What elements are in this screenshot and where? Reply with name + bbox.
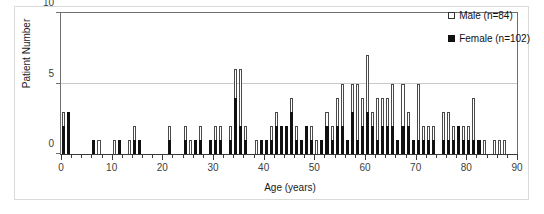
bar-segment-female [290, 112, 293, 154]
bar-stack [255, 140, 258, 154]
bar-segment-female [239, 126, 242, 154]
bar-stack [184, 126, 187, 154]
x-axis-tick-minor [71, 154, 72, 158]
bar-segment-male [467, 126, 470, 140]
x-axis-tick-minor [436, 154, 437, 158]
bar-segment-male [401, 84, 404, 126]
x-axis-tick-major [314, 154, 315, 160]
x-axis-tick-minor [385, 154, 386, 158]
bar-segment-female [457, 126, 460, 154]
bar-segment-male [361, 98, 364, 126]
x-axis-tick-minor [476, 154, 477, 158]
y-axis-tick [56, 83, 61, 84]
bar-stack [336, 98, 339, 154]
bar-stack [331, 126, 334, 154]
x-axis-tick-minor [375, 154, 376, 158]
x-axis-tick-minor [243, 154, 244, 158]
bar-stack [300, 140, 303, 154]
bar-segment-female [67, 112, 70, 154]
x-axis-tick-major [264, 154, 265, 160]
x-axis-tick-minor [81, 154, 82, 158]
bar-segment-male [214, 126, 217, 140]
bar-stack [407, 112, 410, 154]
bar-stack [341, 84, 344, 155]
bar-segment-male [244, 126, 247, 140]
bar-segment-male [427, 126, 430, 140]
bar-stack [351, 84, 354, 155]
x-axis-tick-minor [254, 154, 255, 158]
x-axis-title: Age (years) [60, 182, 520, 193]
bar-segment-male [493, 140, 496, 154]
bar-segment-female [168, 140, 171, 154]
bar-stack [503, 140, 506, 154]
bar-segment-female [447, 140, 450, 154]
y-axis-tick-label: 5 [48, 67, 54, 78]
bar-segment-female [331, 140, 334, 154]
bar-segment-female [341, 126, 344, 154]
x-axis-tick-label: 90 [511, 162, 522, 173]
bar-segment-male [219, 126, 222, 140]
x-axis-tick-minor [294, 154, 295, 158]
bar-stack [483, 140, 486, 154]
bar-stack [290, 98, 293, 154]
bar-segment-female [138, 140, 141, 154]
bar-segment-male [255, 140, 258, 154]
bar-segment-female [325, 126, 328, 154]
bar-segment-male [239, 69, 242, 125]
bar-segment-female [361, 126, 364, 154]
x-axis-tick-minor [395, 154, 396, 158]
bar-stack [280, 126, 283, 154]
bar-stack [214, 126, 217, 154]
legend-item-male: Male (n=84) [448, 10, 530, 21]
bar-stack [346, 140, 349, 154]
x-axis-tick-minor [91, 154, 92, 158]
bar-segment-male [310, 126, 313, 140]
bar-segment-female [133, 140, 136, 154]
bar-stack [320, 140, 323, 154]
x-axis-tick-minor [183, 154, 184, 158]
bar-segment-male [62, 112, 65, 126]
bar-segment-male [462, 126, 465, 140]
x-axis-tick-label: 60 [359, 162, 370, 173]
bar-segment-female [270, 140, 273, 154]
bar-segment-female [346, 140, 349, 154]
bar-segment-male [356, 84, 359, 140]
x-axis-tick-major [61, 154, 62, 160]
bar-stack [128, 140, 131, 154]
bar-segment-male [442, 112, 445, 140]
x-axis-tick-minor [497, 154, 498, 158]
x-axis-tick-major [517, 154, 518, 160]
bar-stack [239, 69, 242, 154]
bar-stack [396, 140, 399, 154]
x-axis-tick-minor [406, 154, 407, 158]
bar-segment-male [498, 140, 501, 154]
bar-stack [315, 140, 318, 154]
bar-segment-female [452, 140, 455, 154]
y-axis-tick-label: 0 [48, 138, 54, 149]
bar-segment-female [462, 140, 465, 154]
bar-segment-male [417, 84, 420, 140]
bar-stack [310, 126, 313, 154]
bar-segment-female [401, 126, 404, 154]
bar-segment-female [422, 140, 425, 154]
bar-stack [189, 140, 192, 154]
bar-stack [194, 140, 197, 154]
bar-segment-female [351, 112, 354, 154]
legend-label-female: Female (n=102) [459, 33, 530, 44]
bar-segment-male [422, 126, 425, 140]
bar-stack [295, 126, 298, 154]
bar-segment-female [386, 126, 389, 154]
bar-segment-male [295, 126, 298, 140]
bar-segment-female [407, 126, 410, 154]
x-axis-tick-minor [193, 154, 194, 158]
bar-segment-male [290, 98, 293, 112]
bar-segment-female [184, 140, 187, 154]
bar-stack [493, 140, 496, 154]
x-axis-tick-label: 50 [309, 162, 320, 173]
bar-stack [432, 126, 435, 154]
bar-segment-male [199, 126, 202, 140]
x-axis-tick-minor [304, 154, 305, 158]
x-axis-tick-major [112, 154, 113, 160]
bar-segment-male [331, 126, 334, 140]
bar-segment-male [234, 69, 237, 97]
